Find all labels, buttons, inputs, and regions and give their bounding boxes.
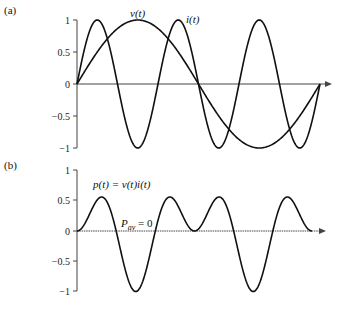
panel-a-y-ticks: 1 0.5 0 −0.5 −1 xyxy=(52,15,77,154)
i-label: i(t) xyxy=(186,13,200,26)
tick-label: 0.5 xyxy=(58,47,71,58)
tick-label: −0.5 xyxy=(52,111,70,122)
arrow-icon xyxy=(325,81,332,87)
tick-label: 0 xyxy=(65,226,70,237)
v-label: v(t) xyxy=(130,7,146,20)
tick-label: 0 xyxy=(65,79,70,90)
tick-label: 0.5 xyxy=(58,195,71,206)
tick-label: −1 xyxy=(59,286,70,297)
panel-a: (a) 1 0.5 0 −0.5 −1 v(t) i(t) xyxy=(4,4,332,154)
panel-b: (b) 1 0.5 0 −0.5 −1 p(t) = v(t)i(t) Pav … xyxy=(4,159,326,297)
figure: (a) 1 0.5 0 −0.5 −1 v(t) i(t) (b) xyxy=(0,0,344,310)
panel-b-label: (b) xyxy=(4,159,17,172)
p-curve xyxy=(77,197,312,292)
tick-label: −1 xyxy=(59,143,70,154)
arrow-icon xyxy=(319,228,326,234)
tick-label: −0.5 xyxy=(52,256,70,267)
p-label: p(t) = v(t)i(t) xyxy=(92,178,151,191)
panel-b-y-ticks: 1 0.5 0 −0.5 −1 xyxy=(52,165,77,297)
pav-label: Pav = 0 xyxy=(120,217,153,232)
tick-label: 1 xyxy=(65,165,70,176)
panel-a-label: (a) xyxy=(4,4,17,17)
tick-label: 1 xyxy=(65,15,70,26)
